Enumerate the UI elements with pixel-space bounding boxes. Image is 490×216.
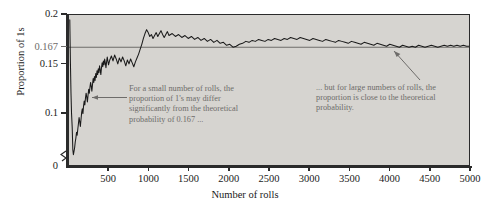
x-tick-label-1500: 1500 <box>169 173 209 184</box>
y-tick-label-0-2: 0.2 <box>0 9 58 20</box>
y-tick-0-167 <box>61 46 67 48</box>
y-tick-label-0-1: 0.1 <box>0 108 58 119</box>
x-tick-label-5000: 5000 <box>450 173 490 184</box>
x-tick-1500 <box>188 166 190 171</box>
x-tick-3500 <box>349 166 351 171</box>
x-tick-label-3500: 3500 <box>329 173 369 184</box>
y-tick-label-0: 0 <box>0 161 58 172</box>
x-tick-1000 <box>148 166 150 171</box>
x-tick-4500 <box>429 166 431 171</box>
x-tick-label-1000: 1000 <box>128 173 168 184</box>
y-axis-break-icon <box>60 150 74 162</box>
y-tick-0-15 <box>61 63 67 65</box>
x-tick-label-2000: 2000 <box>209 173 249 184</box>
y-axis-title: Proportion of 1s <box>15 0 26 127</box>
x-tick-label-2500: 2500 <box>249 173 289 184</box>
y-tick-0-1 <box>61 112 67 114</box>
x-tick-label-4000: 4000 <box>370 173 410 184</box>
y-tick-0-2 <box>61 13 67 15</box>
chart-figure: 0.20.1670.150.10 Proportion of 1s 500100… <box>0 0 490 216</box>
x-tick-4000 <box>389 166 391 171</box>
y-axis-line <box>66 14 68 166</box>
x-tick-2000 <box>228 166 230 171</box>
y-tick-label-0-15: 0.15 <box>0 59 58 70</box>
y-tick-label-0-167: 0.167 <box>0 42 58 53</box>
x-tick-3000 <box>308 166 310 171</box>
x-tick-label-3000: 3000 <box>289 173 329 184</box>
annotation-small-n: For a small number of rolls, the proport… <box>129 84 253 125</box>
x-tick-label-4500: 4500 <box>410 173 450 184</box>
x-axis-title: Number of rolls <box>0 189 490 200</box>
annotation-large-n: ... but for large numbers of rolls, the … <box>316 83 438 114</box>
x-tick-2500 <box>268 166 270 171</box>
x-tick-5000 <box>469 166 471 171</box>
x-tick-label-500: 500 <box>88 173 128 184</box>
x-tick-500 <box>107 166 109 171</box>
